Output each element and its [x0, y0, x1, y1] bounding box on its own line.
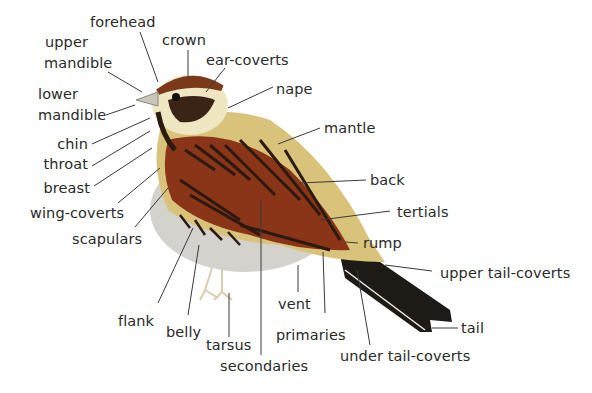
label-throat: throat [30, 156, 88, 173]
label-belly: belly [166, 324, 201, 341]
bird-topography-diagram: forehead crown upper mandible ear-covert… [0, 0, 592, 393]
label-primaries: primaries [276, 327, 346, 344]
label-mantle: mantle [324, 120, 375, 137]
label-chin: chin [40, 136, 88, 153]
label-back: back [370, 172, 405, 189]
legs [200, 268, 232, 300]
label-rump: rump [363, 235, 402, 252]
label-tarsus: tarsus [206, 337, 251, 354]
label-vent: vent [278, 296, 311, 313]
label-ear-coverts: ear-coverts [206, 52, 289, 69]
label-upper-mandible-line2: mandible [44, 55, 112, 72]
label-breast: breast [30, 180, 90, 197]
label-lower-mandible-line2: mandible [38, 107, 106, 124]
label-secondaries: secondaries [220, 358, 308, 375]
eye [172, 93, 180, 101]
label-crown: crown [162, 32, 206, 49]
label-wing-coverts: wing-coverts [30, 205, 124, 222]
beak [136, 92, 158, 106]
label-flank: flank [118, 313, 154, 330]
label-upper-mandible-line1: upper [45, 34, 88, 51]
label-lower-mandible-line1: lower [38, 86, 78, 103]
label-scapulars: scapulars [72, 231, 142, 248]
label-upper-tail-coverts: upper tail-coverts [440, 265, 570, 282]
label-under-tail-coverts: under tail-coverts [340, 348, 470, 365]
label-forehead: forehead [90, 14, 156, 31]
label-nape: nape [276, 81, 313, 98]
label-tertials: tertials [397, 204, 449, 221]
label-tail: tail [461, 320, 484, 337]
